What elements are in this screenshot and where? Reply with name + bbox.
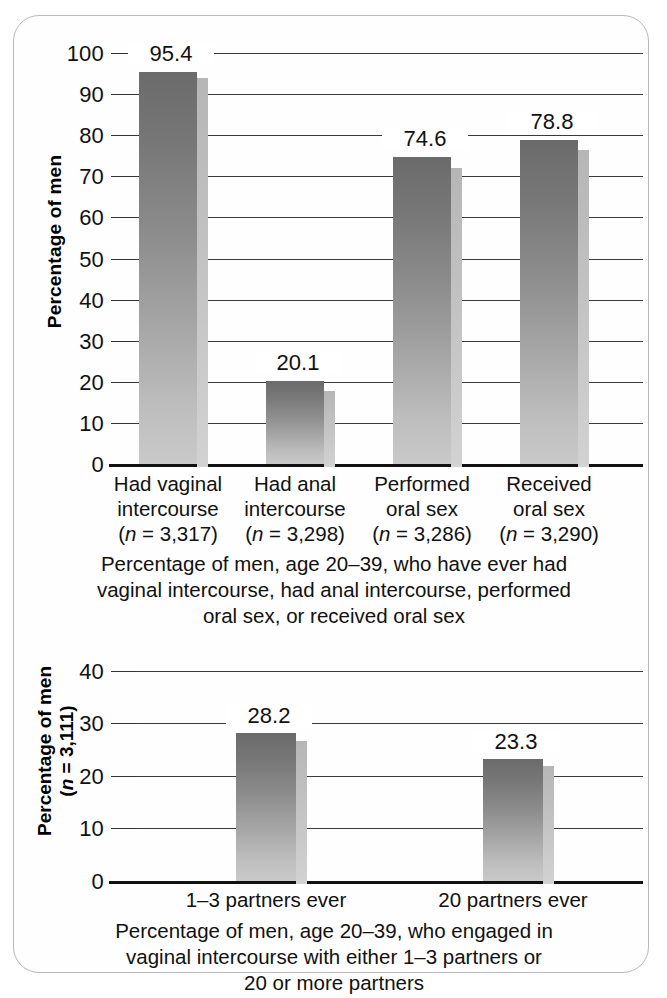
gridline-c2-30 <box>137 723 643 724</box>
category-n-3: 3,286 <box>414 522 465 545</box>
category-label-c2-2: 20 partners ever <box>413 887 613 912</box>
y-tick-dash-70 <box>111 176 137 177</box>
chart-1-caption: Percentage of men, age 20–39, who have e… <box>74 551 594 629</box>
y-tick-dash-80 <box>111 135 137 136</box>
y-tick-label-c2-20: 20 <box>44 766 104 788</box>
chart-1-caption-line-1: Percentage of men, age 20–39, who have e… <box>74 551 594 577</box>
chart-2-x-axis <box>109 881 643 884</box>
category-sample-3: (n = 3,286) <box>350 521 494 546</box>
chart-2-caption-line-1: Percentage of men, age 20–39, who engage… <box>74 918 594 944</box>
bar-shadow-c2-2 <box>543 766 554 884</box>
bar-1-3-partners-ever[interactable] <box>236 733 296 881</box>
gridline-c2-40 <box>137 671 643 672</box>
chart-2-caption: Percentage of men, age 20–39, who engage… <box>74 918 594 996</box>
bar-value-label-c2-1: 28.2 <box>226 705 312 727</box>
bar-had-anal-intercourse[interactable] <box>266 381 324 464</box>
chart-1: Percentage of men 100 90 80 70 60 50 40 … <box>14 16 650 606</box>
y-tick-dash-50 <box>111 259 137 260</box>
y-tick-label-10: 10 <box>44 413 104 435</box>
bar-shadow-2 <box>324 391 335 467</box>
y-tick-label-40: 40 <box>44 290 104 312</box>
gridline-c2-20 <box>137 776 643 777</box>
y-tick-dash-c2-30 <box>111 723 137 724</box>
bar-received-oral-sex[interactable] <box>520 140 578 464</box>
y-tick-dash-40 <box>111 300 137 301</box>
chart-2-caption-line-3: 20 or more partners <box>74 970 594 996</box>
category-line-1b: intercourse <box>96 496 240 521</box>
y-tick-dash-90 <box>111 94 137 95</box>
bar-value-label-4: 78.8 <box>509 111 595 133</box>
category-label-4: Received oral sex (n = 3,290) <box>477 471 621 546</box>
bar-value-label-1: 95.4 <box>128 43 214 65</box>
category-n-2: 3,298 <box>287 522 338 545</box>
y-tick-label-c2-40: 40 <box>44 661 104 683</box>
chart-1-caption-line-3: oral sex, or received oral sex <box>74 603 594 629</box>
y-tick-label-c2-10: 10 <box>44 818 104 840</box>
category-label-c2-1: 1–3 partners ever <box>166 887 366 912</box>
category-sample-1: (n = 3,317) <box>96 521 240 546</box>
category-label-2: Had anal intercourse (n = 3,298) <box>223 471 367 546</box>
y-tick-label-90: 90 <box>44 84 104 106</box>
category-line-4a: Received <box>477 471 621 496</box>
gridline-c2-10 <box>137 828 643 829</box>
category-line-2b: intercourse <box>223 496 367 521</box>
bar-shadow-1 <box>197 78 208 467</box>
y-tick-label-100: 100 <box>44 43 104 65</box>
bar-had-vaginal-intercourse[interactable] <box>139 72 197 464</box>
category-sample-4: (n = 3,290) <box>477 521 621 546</box>
chart-2: Percentage of men (n = 3,111) 40 30 20 1… <box>14 636 650 974</box>
bar-shadow-c2-1 <box>296 741 307 884</box>
category-n-4: 3,290 <box>541 522 592 545</box>
y-tick-label-20: 20 <box>44 372 104 394</box>
bar-20-partners-ever[interactable] <box>483 759 543 881</box>
category-line-3a: Performed <box>350 471 494 496</box>
bar-shadow-4 <box>578 150 589 467</box>
bar-shadow-3 <box>451 168 462 467</box>
gridline-90 <box>137 94 643 95</box>
category-label-3: Performed oral sex (n = 3,286) <box>350 471 494 546</box>
y-tick-label-70: 70 <box>44 166 104 188</box>
category-n-1: 3,317 <box>160 522 211 545</box>
category-line-2a: Had anal <box>223 471 367 496</box>
chart-2-caption-line-2: vaginal intercourse with either 1–3 part… <box>74 944 594 970</box>
bar-performed-oral-sex[interactable] <box>393 157 451 464</box>
y-tick-label-30: 30 <box>44 331 104 353</box>
y-tick-label-c2-30: 30 <box>44 713 104 735</box>
figure-frame: Percentage of men 100 90 80 70 60 50 40 … <box>13 15 649 973</box>
y-tick-dash-c2-40 <box>111 671 137 672</box>
chart-1-x-axis <box>109 464 643 467</box>
y-tick-dash-c2-20 <box>111 776 137 777</box>
y-tick-label-80: 80 <box>44 125 104 147</box>
bar-value-label-2: 20.1 <box>255 352 341 374</box>
y-tick-dash-10 <box>111 423 137 424</box>
category-line-3b: oral sex <box>350 496 494 521</box>
y-tick-label-0: 0 <box>44 454 104 476</box>
y-tick-dash-c2-10 <box>111 828 137 829</box>
y-tick-dash-60 <box>111 217 137 218</box>
y-tick-dash-30 <box>111 341 137 342</box>
category-line-4b: oral sex <box>477 496 621 521</box>
y-tick-label-50: 50 <box>44 249 104 271</box>
y-tick-label-60: 60 <box>44 207 104 229</box>
category-label-1: Had vaginal intercourse (n = 3,317) <box>96 471 240 546</box>
chart-1-caption-line-2: vaginal intercourse, had anal intercours… <box>74 577 594 603</box>
category-line-1a: Had vaginal <box>96 471 240 496</box>
bar-value-label-3: 74.6 <box>382 128 468 150</box>
category-sample-2: (n = 3,298) <box>223 521 367 546</box>
bar-value-label-c2-2: 23.3 <box>473 731 559 753</box>
y-tick-label-c2-0: 0 <box>44 871 104 893</box>
y-tick-dash-20 <box>111 382 137 383</box>
